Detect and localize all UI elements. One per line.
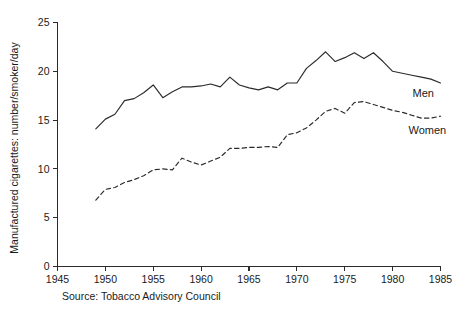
x-tick-label: 1960	[189, 273, 213, 285]
axis-spine	[58, 23, 441, 267]
x-tick-label: 1970	[285, 273, 309, 285]
y-tick-label: 15	[38, 114, 50, 126]
y-axis-ticks: 0510152025	[38, 16, 58, 272]
line-chart: 0510152025 19451950195519601965197019751…	[0, 0, 466, 319]
chart-axes	[58, 23, 441, 267]
y-tick-label: 20	[38, 65, 50, 77]
series-label-men: Men	[413, 87, 434, 99]
series-line-women	[96, 102, 441, 201]
series-labels-group: MenWomen	[409, 87, 447, 136]
source-note: Source: Tobacco Advisory Council	[62, 290, 221, 302]
x-tick-label: 1985	[429, 273, 453, 285]
x-tick-label: 1945	[46, 273, 70, 285]
y-tick-label: 25	[38, 16, 50, 28]
y-tick-label: 0	[44, 260, 50, 272]
x-tick-label: 1975	[333, 273, 357, 285]
x-tick-label: 1955	[142, 273, 166, 285]
x-tick-label: 1980	[381, 273, 405, 285]
x-tick-label: 1950	[94, 273, 118, 285]
data-series-group	[96, 52, 441, 200]
series-line-men	[96, 52, 441, 129]
y-tick-label: 5	[44, 211, 50, 223]
y-tick-label: 10	[38, 163, 50, 175]
y-axis-title: Manufactured cigarettes: number/smoker/d…	[8, 42, 20, 254]
x-tick-label: 1965	[237, 273, 261, 285]
chart-figure: 0510152025 19451950195519601965197019751…	[0, 0, 466, 319]
series-label-women: Women	[409, 124, 447, 136]
x-axis-ticks: 194519501955196019651970197519801985	[46, 267, 453, 285]
